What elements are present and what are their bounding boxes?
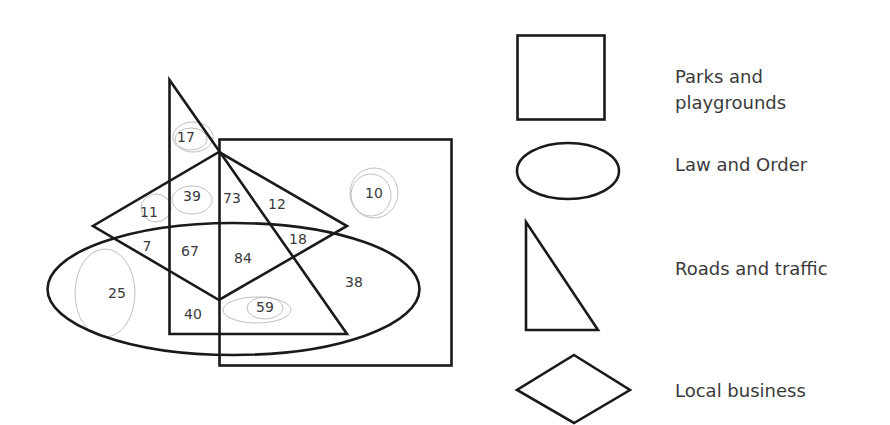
legend-ellipse-icon xyxy=(517,143,619,199)
region-business-only: 11 xyxy=(140,204,158,220)
legend-square-icon xyxy=(518,36,605,120)
legend-triangle-icon xyxy=(526,222,598,330)
region-roads-law: 40 xyxy=(184,306,202,322)
region-law-only: 25 xyxy=(108,285,126,301)
legend-label-roads: Roads and traffic xyxy=(675,256,828,282)
roads-triangle-shape xyxy=(170,80,348,334)
legend-label-parks: Parks and playgrounds xyxy=(675,64,786,116)
legend-shapes xyxy=(517,36,630,424)
region-roads-business: 39 xyxy=(183,188,201,204)
legend-label-parks-line2: playgrounds xyxy=(675,90,786,116)
region-all-four: 84 xyxy=(234,250,252,266)
region-business-law: 7 xyxy=(143,238,152,254)
legend-label-business: Local business xyxy=(675,378,806,404)
legend-diamond-icon xyxy=(517,355,630,423)
region-business-law-parks: 18 xyxy=(289,231,307,247)
pencil-scribbles xyxy=(75,122,398,337)
region-roads-only: 17 xyxy=(177,129,195,145)
region-business-parks: 12 xyxy=(268,196,286,212)
region-parks-only: 10 xyxy=(365,185,383,201)
region-roads-business-law: 67 xyxy=(181,243,199,259)
legend-label-parks-line1: Parks and xyxy=(675,64,786,90)
region-law-parks: 38 xyxy=(345,274,363,290)
region-roads-business-parks: 73 xyxy=(223,190,241,206)
legend-label-law: Law and Order xyxy=(675,152,807,178)
region-labels: 17 11 39 73 12 10 7 67 84 18 25 38 40 59 xyxy=(108,129,383,322)
region-roads-law-parks: 59 xyxy=(256,299,274,315)
